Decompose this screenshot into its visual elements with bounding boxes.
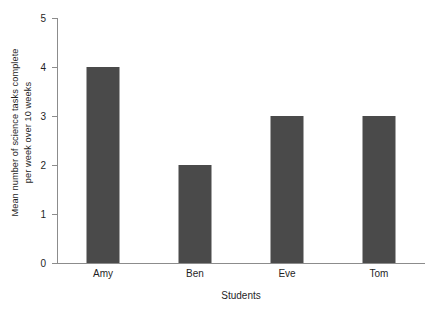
y-axis-title-line-2: per week over 10 weeks <box>21 48 34 216</box>
x-axis-tick-label: Amy <box>93 268 113 279</box>
bar-slot <box>241 18 333 263</box>
x-axis-tick-label: Tom <box>370 268 389 279</box>
bar-slot <box>57 18 149 263</box>
y-axis-tick-label: 4 <box>0 62 46 73</box>
bar <box>363 116 396 263</box>
bar-slot <box>149 18 241 263</box>
y-axis-tick-label: 3 <box>0 111 46 122</box>
bar <box>179 165 212 263</box>
x-axis-line <box>52 263 425 264</box>
y-axis-title: Mean number of science tasks complete pe… <box>4 0 38 265</box>
bar <box>87 67 120 263</box>
y-axis-tick-label: 1 <box>0 209 46 220</box>
y-axis-tick-mark <box>52 263 58 264</box>
y-axis-tick-label: 2 <box>0 160 46 171</box>
y-axis-tick-label: 5 <box>0 13 46 24</box>
y-axis-title-line-1: Mean number of science tasks complete <box>9 48 22 216</box>
x-axis-tick-label: Eve <box>278 268 295 279</box>
x-axis-title: Students <box>57 290 425 301</box>
y-axis-tick-label: 0 <box>0 258 46 269</box>
bar-slot <box>333 18 425 263</box>
plot-area <box>57 18 425 263</box>
bar <box>271 116 304 263</box>
bar-chart: Mean number of science tasks complete pe… <box>0 0 433 316</box>
x-axis-tick-label: Ben <box>186 268 204 279</box>
